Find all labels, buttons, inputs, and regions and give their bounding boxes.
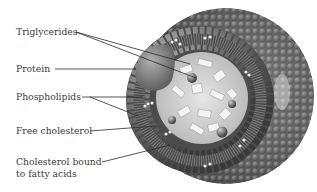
label-cholesterol-bound-line1: Cholesterol bound	[16, 156, 102, 168]
label-free-cholesterol: Free cholesterol	[16, 125, 92, 137]
label-triglycerides: Triglycerides	[16, 26, 77, 38]
label-protein: Protein	[16, 63, 50, 75]
label-cholesterol-bound-line2: to fatty acids	[16, 168, 77, 180]
lipoprotein-diagram: Triglycerides Protein Phospholipids Free…	[0, 0, 317, 192]
label-phospholipids: Phospholipids	[16, 91, 81, 103]
